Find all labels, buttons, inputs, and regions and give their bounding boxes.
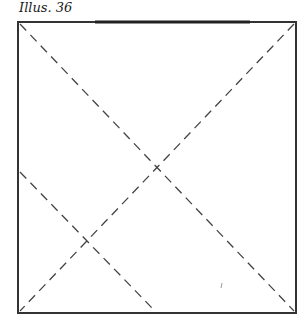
- stray-mark: [221, 283, 222, 288]
- folding-diagram: [0, 0, 308, 331]
